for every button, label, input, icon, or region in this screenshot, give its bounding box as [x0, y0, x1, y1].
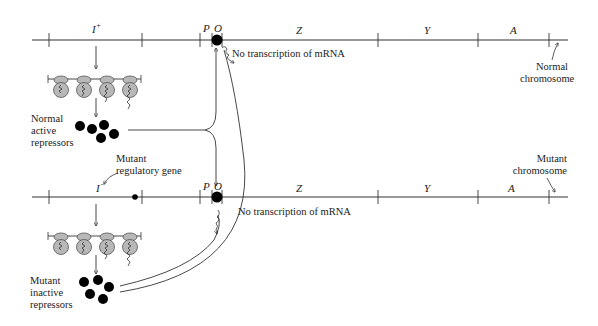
- operator-label-normal: O: [214, 22, 222, 34]
- gene-a-label-normal: A: [510, 24, 517, 36]
- normal-active-repressors-label: Normal active repressors: [31, 113, 74, 149]
- mutant-polyribosome: [48, 232, 141, 266]
- no-transcription-label-normal: No transcription of mRNA: [232, 48, 345, 60]
- bound-repressor-operator-mutant: [212, 192, 223, 203]
- gene-y-label-normal: Y: [424, 24, 430, 36]
- mutant-regulatory-gene-label: Mutant regulatory gene: [116, 153, 182, 177]
- normal-chromosome-label: Normal chromosome: [520, 61, 568, 85]
- gene-z-label-mutant: Z: [296, 182, 302, 194]
- gene-z-label-normal: Z: [296, 24, 302, 36]
- normal-active-repressors: [75, 120, 119, 143]
- promoter-label-mutant: P: [203, 180, 210, 192]
- mutant-chromosome-label: Mutant chromosome: [500, 153, 567, 177]
- mutant-inactive-repressors-label: Mutant inactive repressors: [30, 275, 73, 311]
- gene-y-label-mutant: Y: [424, 182, 430, 194]
- promoter-label-normal: P: [203, 22, 210, 34]
- operator-label-mutant: O: [214, 180, 222, 192]
- regulator-gene-label-mutant: I−: [96, 179, 105, 194]
- gene-a-label-mutant: A: [508, 182, 515, 194]
- mutation-point: [132, 194, 138, 200]
- no-transcription-label-mutant: No transcription of mRNA: [238, 206, 351, 218]
- regulator-gene-label-normal: I+: [92, 20, 101, 35]
- bound-repressor-operator-normal: [212, 35, 223, 46]
- normal-polyribosome: [48, 75, 141, 109]
- mutant-inactive-repressors: [79, 275, 114, 304]
